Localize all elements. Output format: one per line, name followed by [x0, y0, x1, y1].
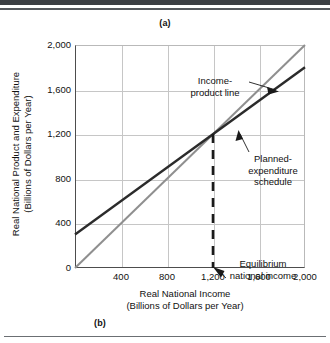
leader-income-product — [249, 82, 276, 90]
y-tick-800: 800 — [55, 173, 71, 184]
top-rule — [0, 8, 330, 10]
y-axis-ticks: 2,000 1,600 1,200 800 400 0 — [28, 45, 71, 268]
y-axis-title: Real National Product and Expenditure (B… — [10, 49, 34, 259]
y-tick-0: 0 — [66, 262, 71, 273]
x-axis-title: Real National Income (Billions of Dollar… — [55, 288, 315, 312]
bottom-rule — [4, 336, 326, 337]
y-tick-2000: 2,000 — [47, 39, 71, 50]
y-tick-1600: 1,600 — [47, 84, 71, 95]
annotation-income-product-line: Income- product line — [178, 75, 252, 98]
y-tick-1200: 1,200 — [47, 128, 71, 139]
x-axis-title-main: Real National Income — [55, 288, 315, 300]
annotation-planned-expenditure-schedule: Planned- expenditure schedule — [236, 153, 310, 188]
panel-caption-b: (b) — [80, 318, 120, 328]
x-tick-800: 800 — [147, 271, 187, 282]
annotation-equilibrium-national-income: Equilibrium national income — [213, 258, 313, 281]
x-tick-400: 400 — [101, 271, 141, 282]
arrowhead-planned-expenditure — [236, 130, 244, 141]
y-axis-title-units: (Billions of Dollars per Year) — [22, 49, 34, 259]
figure-container: 2,000 1,600 1,200 800 400 0 400 800 1,20… — [0, 30, 330, 318]
top-decorative-bar — [0, 0, 330, 5]
y-axis-title-main: Real National Product and Expenditure — [10, 49, 22, 259]
y-tick-400: 400 — [55, 217, 71, 228]
panel-caption-a: (a) — [0, 18, 330, 28]
x-axis-title-units: (Billions of Dollars per Year) — [55, 300, 315, 312]
